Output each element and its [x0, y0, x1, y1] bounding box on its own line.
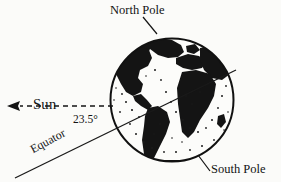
- north-pole-label: North Pole: [110, 4, 165, 17]
- south-pole-label: South Pole: [211, 163, 266, 176]
- diagram-canvas: [0, 0, 281, 182]
- north-pole-leader-line: [143, 17, 157, 34]
- tilt-angle-label: 23.5°: [73, 114, 98, 126]
- south-pole-leader-line: [198, 155, 210, 171]
- earth-tilt-diagram: North Pole South Pole Sun 23.5° Equator: [0, 0, 281, 182]
- sun-label: Sun: [33, 97, 56, 112]
- sun-arrow-head-icon: [7, 101, 20, 111]
